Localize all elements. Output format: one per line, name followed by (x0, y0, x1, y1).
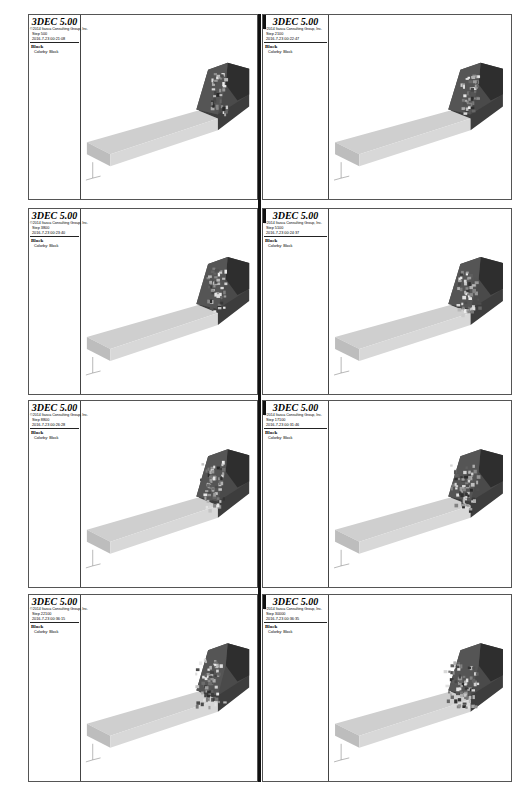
panel-marker (263, 401, 266, 415)
model-snapshot-panel-4: 3DEC 5.00 ©2014 Itasca Consulting Group,… (262, 208, 512, 395)
colorby-text: Colorby: Block (263, 630, 328, 635)
divider (264, 428, 327, 429)
timestamp: 2016-7-23 00:26:28 (29, 423, 80, 428)
3d-viewport[interactable] (81, 209, 257, 394)
model-snapshot-panel-7: 3DEC 5.00 ©2014 Itasca Consulting Group,… (28, 594, 258, 782)
legend-box: 3DEC 5.00 ©2014 Itasca Consulting Group,… (263, 209, 329, 394)
colorby-text: Colorby: Block (29, 244, 80, 249)
model-snapshot-panel-5: 3DEC 5.00 ©2014 Itasca Consulting Group,… (28, 400, 258, 588)
legend-box: 3DEC 5.00 ©2014 Itasca Consulting Group,… (29, 209, 81, 394)
block-model-render (329, 15, 511, 199)
panel-marker (263, 209, 266, 223)
block-model-render (329, 595, 511, 781)
divider (30, 622, 79, 623)
legend-box: 3DEC 5.00 ©2014 Itasca Consulting Group,… (29, 15, 81, 199)
block-model-render (81, 595, 257, 781)
colorby-text: Colorby: Block (263, 244, 328, 249)
legend-box: 3DEC 5.00 ©2014 Itasca Consulting Group,… (263, 15, 329, 199)
model-snapshot-panel-6: 3DEC 5.00 ©2014 Itasca Consulting Group,… (262, 400, 512, 588)
block-model-render (81, 209, 257, 394)
panel-marker (263, 15, 266, 29)
app-title: 3DEC 5.00 (263, 596, 328, 607)
legend-box: 3DEC 5.00 ©2014 Itasca Consulting Group,… (263, 401, 329, 587)
legend-box: 3DEC 5.00 ©2014 Itasca Consulting Group,… (29, 401, 81, 587)
app-title: 3DEC 5.00 (263, 402, 328, 413)
colorby-text: Colorby: Block (263, 50, 328, 55)
divider (30, 42, 79, 43)
legend-box: 3DEC 5.00 ©2014 Itasca Consulting Group,… (263, 595, 329, 781)
3d-viewport[interactable] (329, 209, 511, 394)
app-title: 3DEC 5.00 (263, 210, 328, 221)
legend-box: 3DEC 5.00 ©2014 Itasca Consulting Group,… (29, 595, 81, 781)
divider (264, 42, 327, 43)
block-model-render (81, 401, 257, 587)
timestamp: 2016-7-23 00:36:15 (29, 617, 80, 622)
app-title: 3DEC 5.00 (29, 596, 80, 607)
model-snapshot-panel-2: 3DEC 5.00 ©2014 Itasca Consulting Group,… (262, 14, 512, 200)
timestamp: 2016-7-23 00:24:37 (263, 231, 328, 236)
timestamp: 2016-7-23 00:23:40 (29, 231, 80, 236)
divider (264, 622, 327, 623)
colorby-text: Colorby: Block (29, 50, 80, 55)
timestamp: 2016-7-23 00:31:46 (263, 423, 328, 428)
3d-viewport[interactable] (329, 15, 511, 199)
app-title: 3DEC 5.00 (29, 402, 80, 413)
colorby-text: Colorby: Block (263, 436, 328, 441)
timestamp: 2016-7-23 00:21:08 (29, 37, 80, 42)
divider (30, 428, 79, 429)
divider (264, 236, 327, 237)
3d-viewport[interactable] (329, 401, 511, 587)
block-model-render (81, 15, 257, 199)
block-model-render (329, 401, 511, 587)
column-separator (258, 14, 261, 782)
3d-viewport[interactable] (81, 401, 257, 587)
panel-marker (263, 595, 266, 609)
colorby-text: Colorby: Block (29, 630, 80, 635)
3d-viewport[interactable] (81, 595, 257, 781)
3d-viewport[interactable] (81, 15, 257, 199)
app-title: 3DEC 5.00 (29, 210, 80, 221)
timestamp: 2016-7-23 00:22:47 (263, 37, 328, 42)
app-title: 3DEC 5.00 (263, 16, 328, 27)
colorby-text: Colorby: Block (29, 436, 80, 441)
block-model-render (329, 209, 511, 394)
model-snapshot-panel-1: 3DEC 5.00 ©2014 Itasca Consulting Group,… (28, 14, 258, 200)
timestamp: 2016-7-23 00:36:35 (263, 617, 328, 622)
model-snapshot-panel-3: 3DEC 5.00 ©2014 Itasca Consulting Group,… (28, 208, 258, 395)
app-title: 3DEC 5.00 (29, 16, 80, 27)
divider (30, 236, 79, 237)
3d-viewport[interactable] (329, 595, 511, 781)
model-snapshot-panel-8: 3DEC 5.00 ©2014 Itasca Consulting Group,… (262, 594, 512, 782)
